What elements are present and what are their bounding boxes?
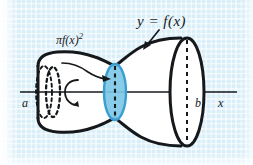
figure-canvas: y = f(x) πf(x)2 a b x xyxy=(0,0,253,165)
fx-term: f(x) xyxy=(62,33,79,47)
exponent-two: 2 xyxy=(79,32,83,41)
bottom-page-margin xyxy=(0,153,253,165)
left-bound-label: a xyxy=(22,97,28,109)
solid-of-revolution-illustration xyxy=(0,0,253,165)
right-page-margin xyxy=(243,0,253,165)
curve-label: y = f(x) xyxy=(137,14,186,29)
x-axis-label: x xyxy=(218,97,223,109)
cross-section-area-label: πf(x)2 xyxy=(56,33,83,46)
left-page-margin xyxy=(0,0,16,165)
right-bound-label: b xyxy=(195,97,201,109)
